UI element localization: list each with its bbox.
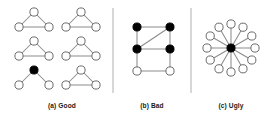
star-leaf-leaf-3 <box>248 32 256 40</box>
lattice-node-ml <box>133 45 141 53</box>
star-leaf-leaf-9 <box>206 56 214 64</box>
graph-node-open <box>30 8 38 16</box>
graph-node-open <box>92 52 100 60</box>
lattice-node-br <box>166 67 174 75</box>
graph-node-open <box>15 52 23 60</box>
caption-ugly: (c) Ugly <box>219 102 244 110</box>
star-leaf-leaf-10 <box>203 44 211 52</box>
star-leaf-leaf-11 <box>206 32 214 40</box>
graph-node-open <box>62 81 70 89</box>
graph-node-open <box>77 66 85 74</box>
graph-node-open <box>15 81 23 89</box>
graph-node-open <box>92 81 100 89</box>
graph-node-open <box>15 23 23 31</box>
graph-node-open <box>77 8 85 16</box>
caption-good: (a) Good <box>48 102 76 110</box>
lattice-node-mr <box>166 45 174 53</box>
figure-canvas: (a) Good (b) Bad (c) Ugly <box>0 0 271 119</box>
graph-node-open <box>62 52 70 60</box>
lattice-node-tl <box>133 23 141 31</box>
graph-node-filled <box>30 66 38 74</box>
graph-node-open <box>92 23 100 31</box>
star-leaf-leaf-5 <box>248 56 256 64</box>
star-leaf-leaf-6 <box>239 65 247 73</box>
star-hub-node <box>227 44 235 52</box>
caption-bad: (b) Bad <box>140 102 163 110</box>
star-leaf-leaf-2 <box>239 23 247 31</box>
lattice-node-tr <box>166 23 174 31</box>
star-leaf-leaf-12 <box>215 23 223 31</box>
star-leaf-leaf-8 <box>215 65 223 73</box>
lattice-node-bl <box>133 67 141 75</box>
graph-node-open <box>45 81 53 89</box>
graph-node-open <box>77 37 85 45</box>
graph-node-open <box>45 23 53 31</box>
graph-node-open <box>45 52 53 60</box>
graph-motif-figure: (a) Good (b) Bad (c) Ugly <box>0 0 271 119</box>
graph-node-open <box>30 37 38 45</box>
graph-node-open <box>62 23 70 31</box>
star-leaf-leaf-4 <box>251 44 259 52</box>
star-leaf-leaf-1 <box>227 20 235 28</box>
star-leaf-leaf-7 <box>227 68 235 76</box>
